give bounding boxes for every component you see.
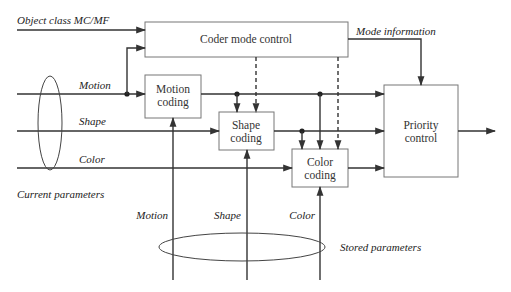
priority-control-label-2: control — [405, 132, 438, 144]
mode-information-label: Mode information — [355, 25, 436, 37]
stored-shape-label: Shape — [214, 209, 241, 221]
motion-to-mode-arrow — [127, 48, 145, 94]
current-parameters-ellipse — [38, 76, 62, 170]
shape-coding-block — [219, 112, 274, 150]
mode-information-arrow — [348, 39, 421, 85]
stored-parameters-ellipse — [159, 233, 325, 261]
stored-color-label: Color — [289, 209, 315, 221]
color-input-label: Color — [79, 153, 105, 165]
color-coding-block — [292, 149, 348, 187]
motion-coding-label-1: Motion — [156, 83, 190, 95]
stored-motion-label: Motion — [135, 209, 168, 221]
current-parameters-label: Current parameters — [17, 188, 104, 200]
coder-mode-label: Coder mode control — [200, 33, 292, 45]
priority-control-block — [384, 85, 458, 177]
object-class-label: Object class MC/MF — [17, 14, 110, 26]
coder-block-diagram: Coder mode control Motion coding Shape c… — [0, 0, 511, 292]
motion-input-label: Motion — [78, 79, 111, 91]
motion-coding-label-2: coding — [157, 96, 189, 109]
priority-control-label-1: Priority — [403, 119, 438, 132]
shape-coding-label-1: Shape — [232, 119, 260, 132]
color-coding-label-2: coding — [304, 169, 336, 182]
shape-coding-label-2: coding — [230, 132, 262, 145]
stored-parameters-label: Stored parameters — [340, 241, 421, 253]
color-coding-label-1: Color — [307, 156, 333, 168]
shape-input-label: Shape — [79, 115, 106, 127]
